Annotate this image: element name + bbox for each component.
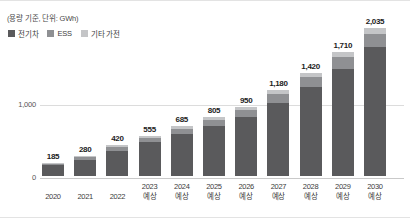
- bar-segment-ev: [267, 103, 289, 176]
- bar-value-label: 1,420: [288, 62, 334, 71]
- stacked-bar[interactable]: [203, 117, 225, 176]
- bar-group[interactable]: 280: [74, 156, 96, 176]
- bar-segment-ev: [139, 142, 161, 176]
- stacked-bar[interactable]: [106, 145, 128, 176]
- bar-segment-ev: [300, 87, 322, 176]
- bar-group[interactable]: 1,710: [332, 52, 354, 176]
- y-axis-tick-0: 0: [2, 173, 36, 182]
- chart-frame: (용량 기준, 단위: GWh) 전기차ESS기타 가전 01,00018520…: [0, 0, 410, 218]
- bar-value-label: 1,710: [320, 41, 366, 50]
- bar-group[interactable]: 950: [235, 107, 257, 176]
- x-axis-year: 2029: [335, 182, 351, 191]
- bar-segment-ev: [332, 69, 354, 176]
- bar-segment-ess: [364, 34, 386, 48]
- stacked-bar[interactable]: [42, 163, 64, 176]
- bar-segment-ess: [267, 94, 289, 103]
- x-axis-year: 2026: [238, 182, 254, 191]
- x-axis-year: 2025: [206, 182, 222, 191]
- bar-group[interactable]: 2,035: [364, 28, 386, 176]
- x-axis-year: 2022: [110, 192, 126, 201]
- bar-group[interactable]: 1,420: [300, 73, 322, 176]
- stacked-bar[interactable]: [74, 156, 96, 176]
- bar-value-label: 950: [223, 96, 269, 105]
- y-axis-tick-1000: 1,000: [2, 100, 36, 109]
- bar-group[interactable]: 1,180: [267, 90, 289, 176]
- bar-segment-ev: [106, 151, 128, 176]
- bar-value-label: 420: [94, 134, 140, 143]
- bar-segment-ess: [300, 77, 322, 87]
- x-axis-year: 2028: [303, 182, 319, 191]
- bar-value-label: 685: [159, 115, 205, 124]
- bar-segment-ess: [332, 57, 354, 69]
- x-axis-year: 2021: [77, 192, 93, 201]
- bar-group[interactable]: 185: [42, 163, 64, 176]
- bar-group[interactable]: 420: [106, 145, 128, 176]
- bar-group[interactable]: 805: [203, 117, 225, 176]
- x-axis-year: 2020: [45, 192, 61, 201]
- stacked-bar[interactable]: [364, 28, 386, 176]
- axis-baseline: [40, 178, 404, 179]
- bar-value-label: 1,180: [255, 79, 301, 88]
- bar-segment-ev: [171, 134, 193, 176]
- bar-value-label: 280: [62, 145, 108, 154]
- stacked-bar[interactable]: [171, 126, 193, 176]
- stacked-bar[interactable]: [235, 107, 257, 176]
- bar-value-label: 555: [127, 125, 173, 134]
- x-axis-label-2030: 2030예상: [352, 182, 398, 201]
- stacked-bar[interactable]: [139, 136, 161, 176]
- x-axis-forecast-note: 예상: [352, 192, 398, 202]
- stacked-bar[interactable]: [300, 73, 322, 176]
- stacked-bar[interactable]: [267, 90, 289, 176]
- x-axis-year: 2030: [367, 182, 383, 191]
- x-axis-year: 2024: [174, 182, 190, 191]
- bar-segment-ev: [235, 117, 257, 176]
- bar-segment-ev: [42, 165, 64, 176]
- bar-value-label: 805: [191, 106, 237, 115]
- bar-group[interactable]: 685: [171, 126, 193, 176]
- stacked-bar[interactable]: [332, 52, 354, 176]
- bar-segment-ess: [235, 110, 257, 117]
- bar-value-label: 2,035: [352, 17, 398, 26]
- bar-segment-ev: [203, 126, 225, 176]
- bar-group[interactable]: 555: [139, 136, 161, 176]
- bar-segment-ev: [74, 160, 96, 177]
- bar-segment-ev: [364, 47, 386, 176]
- plot-area: 01,0001852020280202142020225552023예상6852…: [0, 1, 410, 217]
- x-axis-year: 2023: [142, 182, 158, 191]
- x-axis-year: 2027: [271, 182, 287, 191]
